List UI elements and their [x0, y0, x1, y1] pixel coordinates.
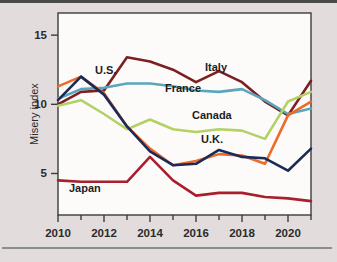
series-label-uk: U.K. — [201, 133, 223, 145]
x-tick-label: 2010 — [45, 227, 71, 239]
x-axis-tick-labels: 201020122014201620182020 — [45, 227, 301, 239]
x-tick-label: 2018 — [229, 227, 255, 239]
series-label-japan: Japan — [69, 182, 101, 194]
y-axis-title: Misery index — [28, 83, 40, 145]
series-label-us: U.S. — [95, 64, 116, 76]
x-tick-label: 2020 — [275, 227, 301, 239]
x-tick-label: 2016 — [183, 227, 209, 239]
series-label-france: France — [165, 82, 201, 94]
x-tick-label: 2014 — [137, 227, 163, 239]
series-label-canada: Canada — [192, 109, 233, 121]
y-tick-label: 15 — [34, 29, 47, 41]
x-axis-ticks — [58, 215, 311, 222]
series-label-italy: Italy — [205, 61, 228, 73]
x-tick-label: 2012 — [91, 227, 117, 239]
misery-index-line-chart: 51015 201020122014201620182020 Misery in… — [0, 0, 337, 262]
y-tick-label: 5 — [41, 167, 48, 179]
figure-container: 51015 201020122014201620182020 Misery in… — [0, 0, 337, 262]
